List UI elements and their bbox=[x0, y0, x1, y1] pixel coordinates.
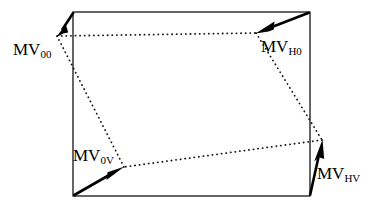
quad-edge-top bbox=[57, 33, 256, 36]
label-mvh0: MVH0 bbox=[261, 38, 302, 55]
label-mvh0-sub: H0 bbox=[288, 45, 301, 57]
mv0v-arrow bbox=[74, 167, 125, 196]
mv0v-arrow-head bbox=[107, 167, 125, 181]
label-mvhv: MVHV bbox=[317, 165, 360, 182]
label-mv00-sub: 00 bbox=[40, 48, 51, 60]
label-mvhv-sub: HV bbox=[344, 172, 360, 184]
mvh0-arrow bbox=[256, 13, 310, 34]
label-mv00-main: MV bbox=[13, 40, 40, 59]
label-mv0v-sub: 0V bbox=[100, 154, 113, 166]
motion-vector-diagram: MV00 MVH0 MV0V MVHV bbox=[0, 0, 375, 206]
mvh0-arrow-shaft bbox=[272, 13, 310, 28]
mvh0-arrow-head bbox=[256, 22, 275, 34]
label-mv0v: MV0V bbox=[73, 147, 114, 164]
label-mv0v-main: MV bbox=[73, 146, 100, 165]
mv0v-arrow-shaft bbox=[74, 174, 112, 196]
label-mvhv-main: MV bbox=[317, 164, 344, 183]
label-mvh0-main: MV bbox=[261, 37, 288, 56]
quad-edge-bottom bbox=[124, 140, 322, 167]
label-mv00: MV00 bbox=[13, 41, 51, 58]
mv00-arrow bbox=[56, 13, 74, 38]
